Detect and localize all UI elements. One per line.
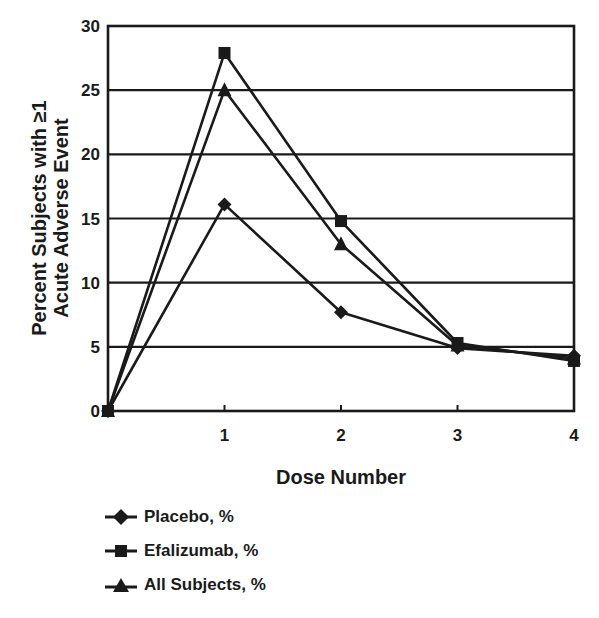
y-axis-ticks: 051015202530 xyxy=(81,17,100,421)
legend-item-placebo: Placebo, % xyxy=(104,500,266,534)
y-axis-title-line-1: Percent Subjects with ≥1 xyxy=(28,100,50,336)
legend: Placebo, % Efalizumab, % All Subjects, % xyxy=(104,500,266,602)
y-axis-title: Percent Subjects with ≥1 Acute Adverse E… xyxy=(28,100,72,336)
legend-label: Placebo, % xyxy=(144,507,234,527)
x-tick-label: 4 xyxy=(569,426,579,445)
data-series xyxy=(101,47,581,418)
y-tick-label: 15 xyxy=(81,210,100,229)
legend-label: Efalizumab, % xyxy=(144,541,258,561)
y-tick-label: 0 xyxy=(91,402,100,421)
series-line xyxy=(108,90,574,411)
square-marker-icon xyxy=(104,541,138,561)
x-axis-title: Dose Number xyxy=(276,466,406,488)
line-chart: 051015202530 1234 Percent Subjects with … xyxy=(0,0,599,618)
y-tick-label: 20 xyxy=(81,145,100,164)
y-tick-label: 5 xyxy=(91,338,100,357)
x-tick-label: 3 xyxy=(453,426,462,445)
series-triangle xyxy=(101,82,581,417)
y-tick-label: 10 xyxy=(81,274,100,293)
x-tick-label: 1 xyxy=(220,426,229,445)
legend-item-all-subjects: All Subjects, % xyxy=(104,568,266,602)
legend-label: All Subjects, % xyxy=(144,575,266,595)
y-tick-label: 30 xyxy=(81,17,100,36)
triangle-marker-icon xyxy=(104,575,138,595)
y-axis-title-line-2: Acute Adverse Event xyxy=(50,118,72,318)
square-marker-icon xyxy=(335,215,347,227)
square-marker-icon xyxy=(219,47,231,59)
y-tick-label: 25 xyxy=(81,81,100,100)
x-tick-label: 2 xyxy=(336,426,345,445)
legend-item-efalizumab: Efalizumab, % xyxy=(104,534,266,568)
diamond-marker-icon xyxy=(104,507,138,527)
series-line xyxy=(108,53,574,411)
